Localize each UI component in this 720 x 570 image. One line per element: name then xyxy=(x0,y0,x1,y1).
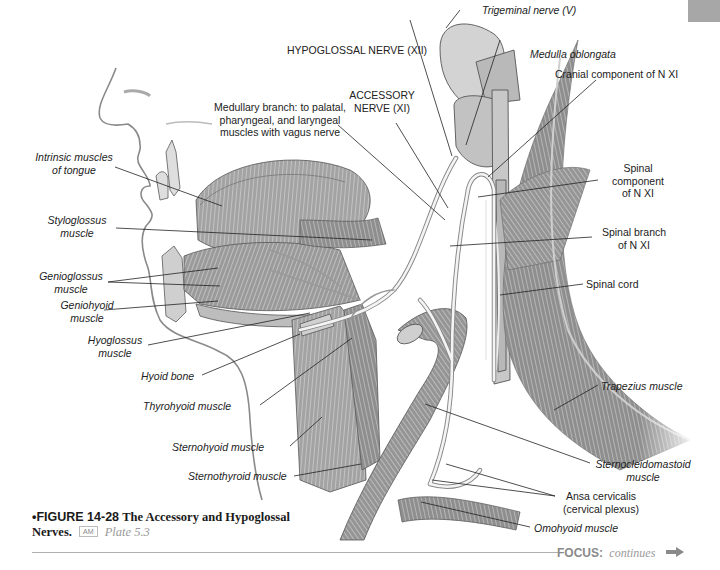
omohyoid xyxy=(398,497,520,530)
label-intrinsic-line1: Intrinsic muscles xyxy=(22,151,126,164)
label-hyoid-bone: Hyoid bone xyxy=(141,370,194,383)
plate-reference[interactable]: Plate 5.3 xyxy=(105,525,150,539)
label-medulla-oblongata: Medulla oblongata xyxy=(530,48,616,61)
figure-number: FIGURE 14-28 xyxy=(36,510,119,524)
label-geniohyoid: Geniohyoid muscle xyxy=(52,299,122,324)
label-trapezius: Trapezius muscle xyxy=(601,380,683,393)
label-spinal-branch-line2: of N XI xyxy=(598,239,670,252)
label-ansa-cervicalis: Ansa cervicalis (cervical plexus) xyxy=(560,490,642,515)
label-hypoglossal-nerve: HYPOGLOSSAL NERVE (XII) xyxy=(287,44,427,57)
label-styloglossus-line1: Styloglossus xyxy=(42,214,112,227)
label-sternohyoid: Sternohyoid muscle xyxy=(172,441,264,454)
right-arrow-icon[interactable] xyxy=(666,547,684,557)
label-spinal-cord: Spinal cord xyxy=(586,278,639,291)
label-genioglossus: Genioglossus muscle xyxy=(34,270,108,295)
label-spinal-component-line3: of N XI xyxy=(602,187,674,200)
styloglossus-shape xyxy=(300,218,386,248)
footer-rule xyxy=(32,552,562,553)
label-medullary-line3: muscles with vagus nerve xyxy=(200,126,360,139)
figure-title-line2: Nerves. xyxy=(32,525,72,539)
am-badge[interactable]: AM xyxy=(79,526,98,537)
figure-title-line1: The Accessory and Hypoglossal xyxy=(122,510,290,524)
label-scm-line2: muscle xyxy=(590,471,696,484)
label-geniohyoid-line2: muscle xyxy=(52,312,122,325)
label-sternocleidomastoid: Sternocleidomastoid muscle xyxy=(590,458,696,483)
label-hyoglossus-line2: muscle xyxy=(82,347,148,360)
label-scm-line1: Sternocleidomastoid xyxy=(590,458,696,471)
label-spinal-branch: Spinal branch of N XI xyxy=(598,226,670,251)
label-spinal-component-line1: Spinal xyxy=(602,162,674,175)
focus-footer: FOCUS: continues xyxy=(557,546,655,561)
label-intrinsic-line2: of tongue xyxy=(22,164,126,177)
label-spinal-component: Spinal component of N XI xyxy=(602,162,674,200)
figure-caption: •FIGURE 14-28 The Accessory and Hypoglos… xyxy=(32,510,290,540)
label-trigeminal-nerve: Trigeminal nerve (V) xyxy=(482,4,576,17)
label-ansa-line2: (cervical plexus) xyxy=(560,503,642,516)
label-medullary-branch: Medullary branch: to palatal, pharyngeal… xyxy=(200,101,360,139)
label-cranial-component: Cranial component of N XI xyxy=(555,68,678,81)
label-styloglossus: Styloglossus muscle xyxy=(42,214,112,239)
label-medullary-line2: pharyngeal, and laryngeal xyxy=(200,114,360,127)
label-sternothyroid: Sternothyroid muscle xyxy=(188,470,287,483)
label-hyoglossus-line1: Hyoglossus xyxy=(82,334,148,347)
label-spinal-branch-line1: Spinal branch xyxy=(598,226,670,239)
focus-label: FOCUS: xyxy=(557,546,603,560)
label-omohyoid: Omohyoid muscle xyxy=(534,522,618,535)
focus-continues[interactable]: continues xyxy=(609,546,655,560)
label-hyoglossus: Hyoglossus muscle xyxy=(82,334,148,359)
infrahyoid-muscles xyxy=(292,304,380,492)
label-styloglossus-line2: muscle xyxy=(42,227,112,240)
label-ansa-line1: Ansa cervicalis xyxy=(560,490,642,503)
label-medullary-line1: Medullary branch: to palatal, xyxy=(200,101,360,114)
label-geniohyoid-line1: Geniohyoid xyxy=(52,299,122,312)
label-thyrohyoid: Thyrohyoid muscle xyxy=(143,400,231,413)
label-spinal-component-line2: component xyxy=(602,175,674,188)
label-genioglossus-line1: Genioglossus xyxy=(34,270,108,283)
label-genioglossus-line2: muscle xyxy=(34,283,108,296)
label-intrinsic-muscles: Intrinsic muscles of tongue xyxy=(22,151,126,176)
label-accessory-line1: ACCESSORY xyxy=(347,89,417,102)
